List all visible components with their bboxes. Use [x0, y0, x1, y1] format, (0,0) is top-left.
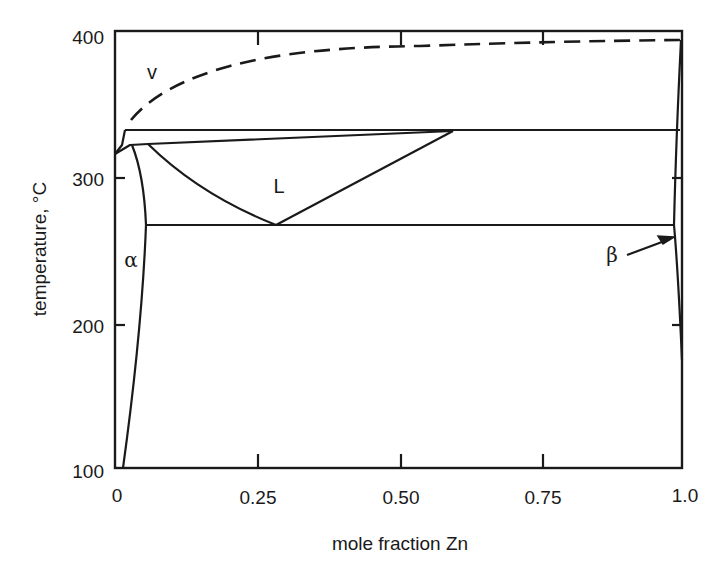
region-labels: v L α β	[124, 61, 618, 272]
vapor-region-label: v	[147, 61, 157, 83]
x-axis: 0 0.25 0.50 0.75 1.0 mole fraction Zn	[112, 31, 699, 554]
liquidus-upper-edge	[115, 131, 453, 154]
liquidus-right-branch	[276, 131, 453, 225]
x-tick-0.75: 0.75	[525, 487, 562, 508]
liquidus-left-branch	[148, 144, 276, 225]
x-tick-0.50: 0.50	[383, 487, 420, 508]
x-tick-1.0: 1.0	[672, 485, 698, 506]
y-axis-title: temperature, °C	[29, 182, 50, 316]
vapor-boundary-curve	[131, 40, 680, 120]
beta-pointer-arrow-icon	[627, 236, 674, 255]
beta-region-label: β	[606, 243, 618, 267]
plot-frame	[115, 31, 682, 468]
x-tick-0: 0	[112, 485, 123, 506]
y-tick-300: 300	[72, 169, 104, 190]
alpha-solvus-curve	[123, 145, 146, 468]
x-axis-title: mole fraction Zn	[332, 533, 468, 554]
alpha-region-label: α	[124, 248, 138, 272]
y-tick-100: 100	[72, 461, 104, 482]
phase-diagram-chart: 400 300 200 100 temperature, °C 0 0.25 0…	[0, 0, 722, 580]
y-tick-400: 400	[72, 27, 104, 48]
phase-boundaries	[115, 40, 682, 468]
x-tick-0.25: 0.25	[240, 487, 277, 508]
liquid-region-label: L	[273, 175, 284, 197]
y-tick-200: 200	[72, 316, 104, 337]
